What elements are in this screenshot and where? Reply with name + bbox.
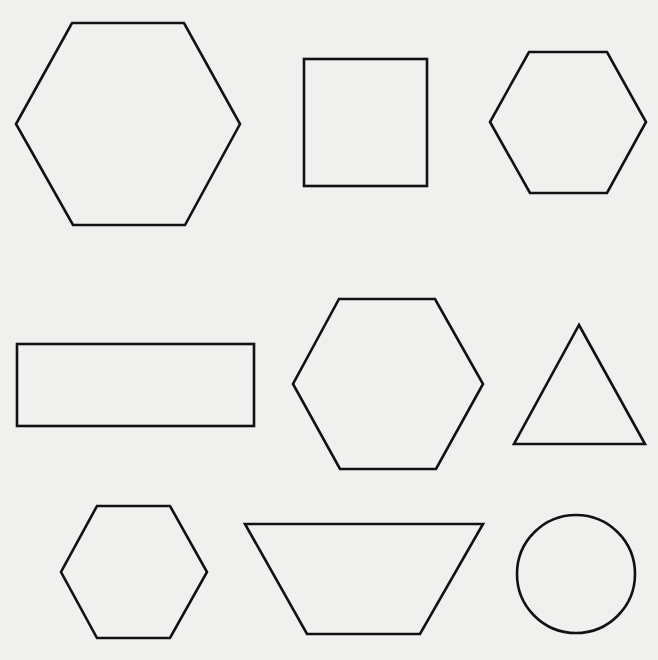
hexagon-center bbox=[293, 299, 483, 469]
circle-bottom-right bbox=[517, 515, 635, 633]
rectangle-middle-left bbox=[17, 344, 254, 426]
square-top-middle bbox=[304, 59, 427, 186]
trapezoid-bottom-middle bbox=[245, 524, 483, 634]
shapes-figure bbox=[0, 0, 658, 660]
hexagon-large-top-left bbox=[16, 23, 240, 225]
shapes-canvas bbox=[0, 0, 658, 660]
triangle-middle-right bbox=[514, 325, 645, 444]
hexagon-top-right bbox=[490, 52, 646, 193]
hexagon-bottom-left bbox=[61, 506, 207, 638]
